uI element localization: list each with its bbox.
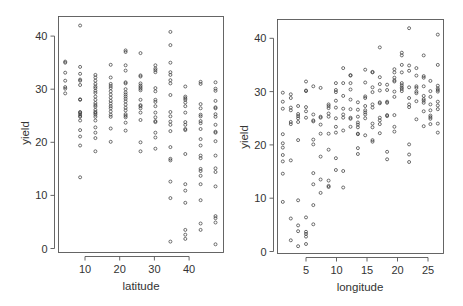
data-point [349,125,352,128]
data-point [436,108,439,111]
data-point [436,122,439,125]
data-point [199,222,202,225]
data-point [139,141,142,144]
data-point [94,119,97,122]
data-point [124,121,127,124]
data-point [297,224,300,227]
data-point [154,100,157,103]
data-point [342,116,345,119]
data-point [199,183,202,186]
data-point [371,91,374,94]
data-point [214,99,217,102]
data-point [312,113,315,116]
data-point [154,111,157,114]
data-point [64,92,67,95]
data-point [297,230,300,233]
data-point [139,150,142,153]
right-y-tick-label: 40 [254,32,266,44]
data-point [184,201,187,204]
left-x-tick-label: 10 [79,263,91,275]
data-point [334,106,337,109]
data-point [386,83,389,86]
right-x-axis-label: longitude [337,281,384,293]
data-point [109,107,112,110]
data-point [327,107,330,110]
left-y-tick-label: 40 [35,30,47,42]
data-point [124,69,127,72]
data-point [349,88,352,91]
data-point [199,103,202,106]
left-x-tick-label: 30 [148,263,160,275]
data-point [327,148,330,151]
data-point [408,86,411,89]
data-point [393,90,396,93]
data-point [154,90,157,93]
data-point [94,115,97,118]
data-point [109,140,112,143]
data-point [94,131,97,134]
data-point [371,122,374,125]
right-y-tick-label: 20 [254,139,266,151]
data-point [139,107,142,110]
data-point [289,239,292,242]
data-point [154,116,157,119]
data-point [364,68,367,71]
right-y-axis-label: yield [238,125,250,149]
left-panel: 010203040 10203040 latitude yield [19,17,224,293]
data-point [139,52,142,55]
data-point [199,170,202,173]
data-point [334,91,337,94]
data-point [109,63,112,66]
figure: 010203040 10203040 latitude yield 010203… [0,0,463,306]
data-point [94,95,97,98]
data-point [109,87,112,90]
data-point [281,91,284,94]
data-point [312,138,315,141]
left-x-tick-label: 20 [114,263,126,275]
data-point [378,89,381,92]
data-point [199,144,202,147]
right-x-tick-label: 25 [422,264,434,276]
data-point [124,129,127,132]
data-point [214,221,217,224]
data-point [364,81,367,84]
data-point [312,204,315,207]
data-point [184,189,187,192]
data-point [199,122,202,125]
data-point [184,237,187,240]
data-point [79,119,82,122]
data-point [214,89,217,92]
right-x-tick-label: 15 [361,264,373,276]
data-point [169,82,172,85]
data-point [214,185,217,188]
data-point [297,121,300,124]
data-point [378,83,381,86]
data-point [393,95,396,98]
data-point [393,71,396,74]
data-point [154,147,157,150]
data-point [169,30,172,33]
data-point [415,74,418,77]
data-point [109,115,112,118]
right-x-axis: 510152025 [303,258,434,276]
data-point [305,80,308,83]
data-point [199,82,202,85]
data-point [154,136,157,139]
data-point [408,161,411,164]
data-point [297,139,300,142]
data-point [79,176,82,179]
right-plot-frame [278,20,444,254]
data-point [214,167,217,170]
data-point [319,191,322,194]
data-point [327,115,330,118]
data-point [64,79,67,82]
data-point [342,94,345,97]
data-point [184,85,187,88]
data-point [289,97,292,100]
data-point [436,100,439,103]
left-y-tick-label: 10 [35,189,47,201]
data-point [169,123,172,126]
data-point [429,95,432,98]
data-point [79,144,82,147]
data-point [415,100,418,103]
